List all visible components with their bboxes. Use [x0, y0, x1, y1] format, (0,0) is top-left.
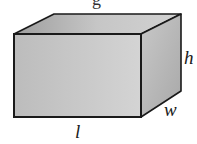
cropped-title-text: g: [92, 0, 101, 9]
front-face: [14, 34, 141, 117]
rectangular-prism-diagram: g h w l: [0, 0, 197, 144]
height-label: h: [184, 47, 194, 68]
length-label: l: [75, 121, 80, 142]
width-label: w: [164, 99, 177, 120]
